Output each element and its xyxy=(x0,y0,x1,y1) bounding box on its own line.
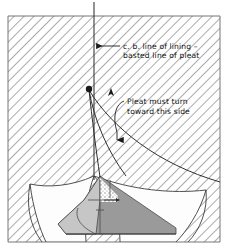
cb-line-label-line2: basted line of pleat xyxy=(123,51,199,60)
pleat-construction-diagram: c. b. line of lining – basted line of pl… xyxy=(0,0,228,250)
figure-container: c. b. line of lining – basted line of pl… xyxy=(0,0,228,250)
basting-point-dot xyxy=(86,86,92,92)
pleat-turn-label-line2: toward this side xyxy=(127,107,190,116)
pleat-turn-label-line1: Pleat must turn xyxy=(127,97,188,106)
cb-line-label-line1: c. b. line of lining – xyxy=(123,42,198,51)
